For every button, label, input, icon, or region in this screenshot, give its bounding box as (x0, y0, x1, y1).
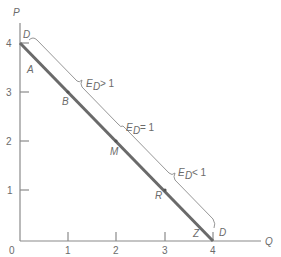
x-tick-label-3: 3 (162, 245, 168, 256)
svg-text:E: E (126, 122, 133, 133)
demand-label-bottom: D (219, 227, 226, 238)
y-tick-label-1: 1 (7, 185, 13, 196)
svg-text:E: E (178, 167, 185, 178)
svg-text:> 1: > 1 (100, 78, 115, 89)
y-tick-label-2: 2 (6, 136, 12, 147)
x-axis-label: Q (265, 236, 273, 247)
elasticity-label-elastic: E D > 1 (86, 78, 115, 92)
x-tick-label-2: 2 (113, 245, 119, 256)
point-B (66, 90, 69, 93)
point-label-B: B (62, 96, 69, 107)
y-axis-label: P (13, 7, 20, 18)
x-tick-label-4: 4 (210, 245, 216, 256)
point-label-Z: Z (192, 228, 200, 239)
y-tick-label-3: 3 (6, 87, 12, 98)
point-label-A: A (26, 64, 34, 75)
elasticity-braces (29, 38, 215, 228)
point-label-R: R (155, 190, 162, 201)
point-R (163, 188, 166, 191)
demand-label-top: D (23, 29, 30, 40)
svg-text:< 1: < 1 (192, 167, 207, 178)
point-M (114, 139, 117, 142)
x-tick-label-1: 1 (65, 245, 71, 256)
svg-text:E: E (86, 78, 93, 89)
elasticity-label-inelastic: E D < 1 (178, 167, 207, 181)
svg-text:= 1: = 1 (140, 122, 155, 133)
point-label-M: M (110, 146, 119, 157)
origin-label: 0 (9, 245, 15, 256)
demand-elasticity-chart: P Q 0 4 3 2 1 1 2 3 4 A B M R Z D D E D … (0, 0, 281, 257)
y-tick-label-4: 4 (6, 38, 12, 49)
